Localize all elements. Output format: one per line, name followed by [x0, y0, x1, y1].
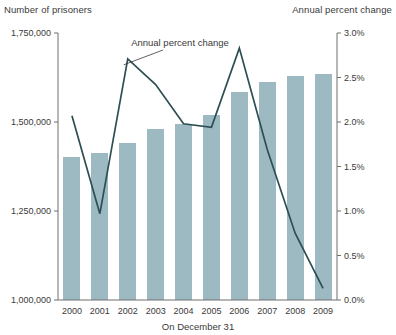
annotation-leader-line	[124, 50, 163, 65]
x-tick-label-2002: 2002	[118, 306, 138, 316]
x-axis-ticks: 2000200120022003200420052006200720082009	[62, 306, 333, 316]
bar-2002	[119, 143, 136, 300]
x-tick-label-2000: 2000	[62, 306, 82, 316]
bar-2005	[203, 115, 220, 300]
x-tick-label-2007: 2007	[257, 306, 277, 316]
left-tick-label: 1,000,000	[11, 295, 51, 305]
chart-figure: Number of prisoners Annual percent chang…	[0, 0, 396, 335]
bar-2004	[175, 124, 192, 300]
annual-percent-change-line	[72, 48, 323, 288]
x-tick-label-2009: 2009	[313, 306, 333, 316]
chart-plot-area: 1,000,0001,250,0001,500,0001,750,000 0.0…	[0, 0, 396, 335]
right-tick-label: 0.5%	[344, 251, 365, 261]
x-tick-label-2001: 2001	[90, 306, 110, 316]
left-axis-ticks: 1,000,0001,250,0001,500,0001,750,000	[11, 28, 58, 305]
annotation-label: Annual percent change	[131, 37, 229, 48]
right-tick-label: 1.0%	[344, 206, 365, 216]
right-tick-label: 2.5%	[344, 73, 365, 83]
x-tick-label-2003: 2003	[146, 306, 166, 316]
bar-2009	[315, 74, 332, 300]
bar-series	[63, 74, 331, 300]
right-axis-ticks: 0.0%0.5%1.0%1.5%2.0%2.5%3.0%	[337, 28, 365, 305]
bar-2001	[91, 153, 108, 300]
bar-2003	[147, 129, 164, 300]
line-series	[72, 48, 323, 288]
right-tick-label: 3.0%	[344, 28, 365, 38]
bar-2008	[287, 76, 304, 300]
left-tick-label: 1,500,000	[11, 117, 51, 127]
x-tick-label-2006: 2006	[229, 306, 249, 316]
x-axis-label: On December 31	[0, 321, 396, 332]
x-tick-label-2008: 2008	[285, 306, 305, 316]
left-tick-label: 1,750,000	[11, 28, 51, 38]
right-tick-label: 0.0%	[344, 295, 365, 305]
right-tick-label: 1.5%	[344, 162, 365, 172]
right-tick-label: 2.0%	[344, 117, 365, 127]
series-annotation: Annual percent change	[124, 37, 229, 65]
x-tick-label-2004: 2004	[174, 306, 194, 316]
bar-2006	[231, 92, 248, 300]
bar-2007	[259, 82, 276, 300]
x-tick-label-2005: 2005	[201, 306, 221, 316]
bar-2000	[63, 157, 80, 300]
left-tick-label: 1,250,000	[11, 206, 51, 216]
